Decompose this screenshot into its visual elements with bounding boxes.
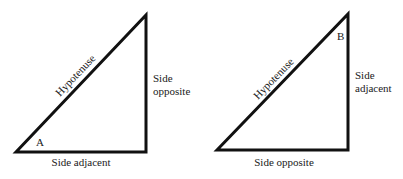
hypotenuse-label: Hypotenuse (251, 55, 296, 101)
vertical-side-label-line1: Side (153, 72, 173, 84)
triangle-outline (16, 15, 146, 152)
vertical-side-label-line1: Side (355, 69, 375, 81)
vertical-side-label-line2: adjacent (355, 82, 392, 94)
triangle-angle-a: A Hypotenuse Side opposite Side adjacent (16, 15, 190, 168)
right-triangle-diagram: A Hypotenuse Side opposite Side adjacent… (0, 0, 403, 179)
triangle-outline (217, 14, 348, 150)
angle-label-b: B (337, 30, 344, 42)
angle-label-a: A (36, 136, 44, 148)
vertical-side-label-line2: opposite (153, 85, 190, 97)
bottom-side-label: Side adjacent (52, 156, 111, 168)
bottom-side-label: Side opposite (254, 156, 314, 168)
triangle-angle-b: B Hypotenuse Side adjacent Side opposite (217, 14, 392, 168)
